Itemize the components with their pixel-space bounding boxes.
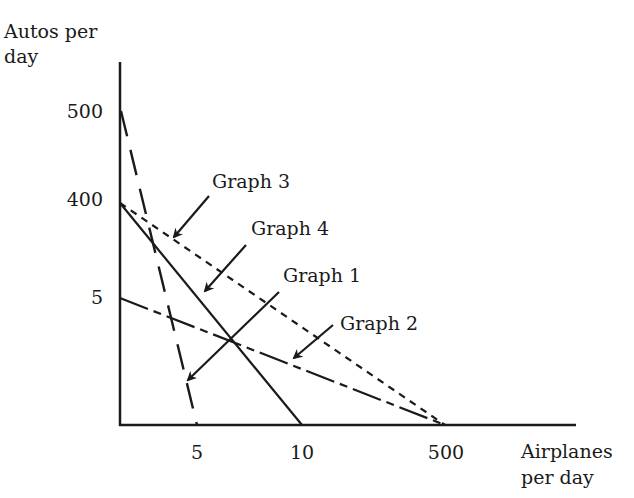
y-tick-400: 400: [67, 188, 103, 210]
arrow-graph-3: [174, 196, 209, 237]
y-axis-label-line2: day: [4, 45, 38, 67]
chart: Autos per day Airplanes per day 500 400 …: [0, 0, 634, 498]
y-axis-label-line1: Autos per: [3, 20, 98, 42]
annotation-graph-1: Graph 1: [283, 264, 361, 286]
annotation-graph-3: Graph 3: [212, 170, 290, 192]
arrow-graph-1: [188, 292, 279, 380]
annotation-graph-4: Graph 4: [251, 217, 329, 239]
y-tick-500: 500: [67, 100, 103, 122]
x-axis-label-line2: per day: [521, 466, 594, 488]
line-a-long-dash: [121, 111, 197, 425]
x-tick-500: 500: [428, 441, 464, 463]
x-axis-label-line1: Airplanes: [520, 440, 613, 462]
x-tick-10: 10: [290, 441, 314, 463]
arrow-graph-2: [294, 325, 333, 358]
annotation-graph-2: Graph 2: [340, 312, 418, 334]
x-tick-5: 5: [191, 441, 203, 463]
y-tick-5: 5: [91, 286, 103, 308]
